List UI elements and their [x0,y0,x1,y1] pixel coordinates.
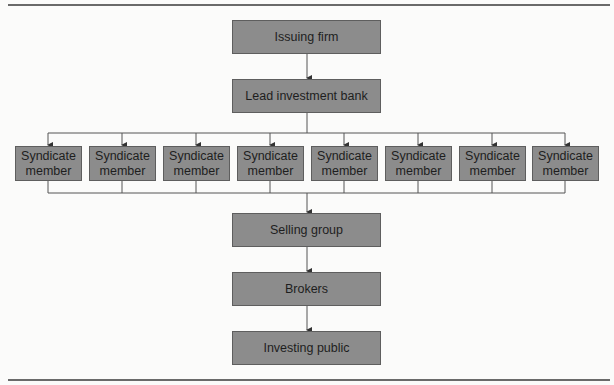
node-label-line1: Syndicate [465,149,520,163]
node-syndicate-member: Syndicatemember [311,146,378,181]
node-investing-public: Investing public [232,331,381,365]
node-label-line2: member [322,164,368,178]
connector-lines [0,0,614,385]
node-label: Lead investment bank [245,89,367,103]
node-label-line1: Syndicate [21,149,76,163]
node-syndicate-member: Syndicatemember [89,146,156,181]
node-label-line1: Syndicate [538,149,593,163]
node-label: Brokers [285,282,328,296]
node-label-line2: member [396,164,442,178]
node-issuing-firm: Issuing firm [232,20,381,54]
node-label: Selling group [270,223,343,237]
node-label: Issuing firm [275,30,339,44]
node-syndicate-member: Syndicatemember [237,146,304,181]
node-syndicate-member: Syndicatemember [459,146,526,181]
node-syndicate-member: Syndicatemember [163,146,230,181]
node-label-line1: Syndicate [391,149,446,163]
node-label-line1: Syndicate [317,149,372,163]
node-label-line2: member [248,164,294,178]
node-label-line1: Syndicate [169,149,224,163]
node-syndicate-member: Syndicatemember [532,146,599,181]
node-brokers: Brokers [232,272,381,306]
node-syndicate-member: Syndicatemember [385,146,452,181]
node-selling-group: Selling group [232,213,381,247]
node-label-line2: member [100,164,146,178]
node-label-line1: Syndicate [243,149,298,163]
node-label-line2: member [470,164,516,178]
node-lead-investment-bank: Lead investment bank [232,79,381,113]
node-syndicate-member: Syndicatemember [15,146,82,181]
node-label-line1: Syndicate [95,149,150,163]
node-label-line2: member [543,164,589,178]
node-label-line2: member [26,164,72,178]
node-label: Investing public [263,341,349,355]
node-label-line2: member [174,164,220,178]
